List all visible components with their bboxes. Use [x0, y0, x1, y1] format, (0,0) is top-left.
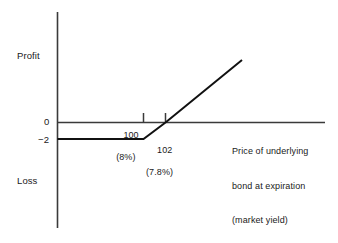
breakeven-annotation: 102 (7.8%) — [146, 134, 173, 200]
strike-price-label: 100 — [123, 130, 138, 140]
x-axis-title-line-1: Price of underlying — [232, 146, 308, 158]
x-axis-title-line-2: bond at expiration — [232, 181, 308, 193]
payoff-line — [58, 60, 243, 139]
x-axis-title-line-3: (market yield) — [232, 215, 308, 227]
payoff-diagram: Profit Loss 0 −2 100 (8%) 102 (7.8%) Pri… — [0, 0, 338, 243]
strike-annotation: 100 (8%) — [113, 119, 139, 185]
loss-region-label: Loss — [17, 175, 37, 186]
y-tick-label-negative-two: −2 — [38, 134, 49, 145]
breakeven-yield-label: (7.8%) — [146, 167, 173, 178]
breakeven-price-label: 102 — [157, 145, 172, 155]
strike-yield-label: (8%) — [113, 152, 139, 163]
y-tick-label-zero: 0 — [44, 116, 49, 127]
x-axis-title: Price of underlying bond at expiration (… — [232, 123, 308, 243]
profit-region-label: Profit — [17, 50, 40, 61]
